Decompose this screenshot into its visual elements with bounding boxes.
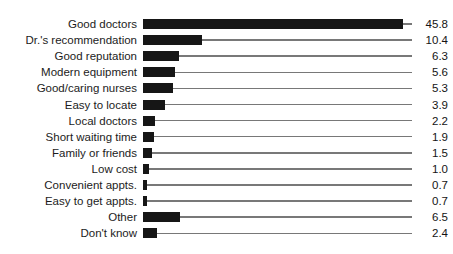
category-label: Easy to locate xyxy=(0,97,137,113)
leader-line xyxy=(149,168,412,170)
leader-line xyxy=(155,120,412,122)
bar-area xyxy=(143,180,412,190)
value-label: 0.7 xyxy=(412,177,448,193)
leader-line xyxy=(175,72,412,74)
category-label: Convenient appts. xyxy=(0,177,137,193)
leader-line xyxy=(202,39,412,41)
category-label: Short waiting time xyxy=(0,129,137,145)
category-label: Family or friends xyxy=(0,145,137,161)
category-label: Dr.'s recommendation xyxy=(0,32,137,48)
value-label: 1.0 xyxy=(412,161,448,177)
leader-line xyxy=(147,200,412,202)
bar xyxy=(143,67,175,77)
value-label: 1.9 xyxy=(412,129,448,145)
category-label: Modern equipment xyxy=(0,64,137,80)
leader-line xyxy=(179,55,412,57)
bar-area xyxy=(143,196,412,206)
bar xyxy=(143,212,180,222)
chart-row: Easy to locate 3.9 xyxy=(0,96,453,112)
bar-area xyxy=(143,228,412,238)
bar xyxy=(143,35,202,45)
chart-row: Family or friends 1.5 xyxy=(0,145,453,161)
leader-line xyxy=(165,104,412,106)
leader-line xyxy=(152,152,413,154)
category-label: Easy to get appts. xyxy=(0,193,137,209)
chart-row: Good/caring nurses 5.3 xyxy=(0,80,453,96)
leader-line xyxy=(147,184,412,186)
chart-row: Good reputation 6.3 xyxy=(0,48,453,64)
chart-row: Don't know 2.4 xyxy=(0,225,453,241)
leader-line xyxy=(154,136,412,138)
value-label: 45.8 xyxy=(412,16,448,32)
value-label: 10.4 xyxy=(412,32,448,48)
bar xyxy=(143,116,155,126)
leader-line xyxy=(180,216,412,218)
bar-area xyxy=(143,67,412,77)
category-label: Good doctors xyxy=(0,16,137,32)
value-label: 2.2 xyxy=(412,113,448,129)
value-label: 5.3 xyxy=(412,80,448,96)
chart-row: Easy to get appts. 0.7 xyxy=(0,193,453,209)
bar-area xyxy=(143,164,412,174)
bar-area xyxy=(143,132,412,142)
chart-row: Modern equipment 5.6 xyxy=(0,64,453,80)
category-label: Good/caring nurses xyxy=(0,80,137,96)
category-label: Other xyxy=(0,209,137,225)
bar xyxy=(143,19,403,29)
chart-row: Other 6.5 xyxy=(0,209,453,225)
leader-line xyxy=(157,233,412,235)
bar-area xyxy=(143,19,412,29)
bar-area xyxy=(143,35,412,45)
bar-area xyxy=(143,83,412,93)
category-label: Good reputation xyxy=(0,48,137,64)
bar xyxy=(143,83,173,93)
value-label: 3.9 xyxy=(412,97,448,113)
value-label: 2.4 xyxy=(412,225,448,241)
category-label: Don't know xyxy=(0,225,137,241)
value-label: 0.7 xyxy=(412,193,448,209)
bar xyxy=(143,51,179,61)
category-label: Low cost xyxy=(0,161,137,177)
bar-chart: Good doctors 45.8 Dr.'s recommendation 1… xyxy=(0,0,453,254)
chart-row: Dr.'s recommendation 10.4 xyxy=(0,32,453,48)
bar xyxy=(143,228,157,238)
chart-rows: Good doctors 45.8 Dr.'s recommendation 1… xyxy=(0,16,453,241)
leader-line xyxy=(403,23,412,25)
bar-area xyxy=(143,116,412,126)
category-label: Local doctors xyxy=(0,113,137,129)
bar-area xyxy=(143,148,412,158)
chart-row: Low cost 1.0 xyxy=(0,161,453,177)
value-label: 6.5 xyxy=(412,209,448,225)
chart-row: Local doctors 2.2 xyxy=(0,113,453,129)
value-label: 1.5 xyxy=(412,145,448,161)
bar-area xyxy=(143,51,412,61)
bar xyxy=(143,148,152,158)
bar-area xyxy=(143,212,412,222)
value-label: 6.3 xyxy=(412,48,448,64)
bar xyxy=(143,100,165,110)
value-label: 5.6 xyxy=(412,64,448,80)
chart-row: Good doctors 45.8 xyxy=(0,16,453,32)
bar-area xyxy=(143,100,412,110)
bar xyxy=(143,132,154,142)
chart-row: Convenient appts. 0.7 xyxy=(0,177,453,193)
leader-line xyxy=(173,88,412,90)
chart-row: Short waiting time 1.9 xyxy=(0,129,453,145)
